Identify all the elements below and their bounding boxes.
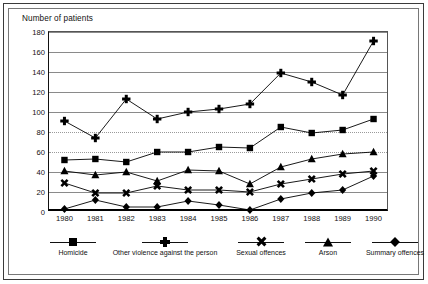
- data-point-x: [60, 179, 68, 187]
- data-point-diamond: [184, 197, 191, 205]
- data-point-plus: [308, 78, 316, 86]
- data-point-triangle: [60, 167, 68, 174]
- data-point-plus: [153, 115, 161, 123]
- data-point-square: [61, 157, 67, 163]
- data-point-triangle: [122, 168, 130, 175]
- y-tick-160: 160: [32, 48, 45, 57]
- x-tick-1986: 1986: [241, 214, 258, 223]
- data-point-diamond: [277, 195, 284, 203]
- data-point-diamond: [92, 196, 99, 204]
- data-point-x: [277, 180, 285, 188]
- x-tick-1990: 1990: [365, 214, 382, 223]
- x-tick-1984: 1984: [180, 214, 197, 223]
- data-point-diamond: [123, 203, 130, 211]
- data-point-square: [278, 124, 284, 130]
- chart-legend: HomicideOther violence against the perso…: [20, 236, 410, 266]
- data-point-square: [247, 145, 253, 151]
- x-tick-1981: 1981: [87, 214, 104, 223]
- x-tick-1983: 1983: [149, 214, 166, 223]
- legend-item-summary-offences[interactable]: Summary offences: [350, 236, 428, 256]
- data-point-plus: [369, 37, 377, 45]
- y-tick-180: 180: [32, 28, 45, 37]
- legend-label: Other violence against the person: [100, 249, 230, 256]
- x-marker-icon: [256, 237, 266, 247]
- data-point-square: [339, 127, 345, 133]
- data-point-square: [123, 159, 129, 165]
- data-point-triangle: [370, 148, 378, 155]
- legend-sample: [238, 236, 284, 248]
- data-point-plus: [215, 105, 223, 113]
- legend-sample: [372, 236, 418, 248]
- data-point-diamond: [339, 186, 346, 194]
- data-point-diamond: [308, 189, 315, 197]
- legend-label: Summary offences: [350, 249, 428, 256]
- square-marker-icon: [69, 238, 77, 246]
- data-point-diamond: [154, 203, 161, 211]
- chart-title: Number of patients: [22, 14, 93, 23]
- data-point-square: [154, 149, 160, 155]
- data-point-square: [216, 144, 222, 150]
- data-point-diamond: [61, 205, 68, 213]
- diamond-marker-icon: [390, 237, 400, 247]
- legend-sample: [50, 236, 96, 248]
- data-point-plus: [91, 134, 99, 142]
- y-tick-0: 0: [41, 208, 45, 217]
- series-line: [64, 41, 373, 138]
- x-tick-1985: 1985: [211, 214, 228, 223]
- series-homicide: [61, 116, 376, 165]
- y-tick-100: 100: [32, 108, 45, 117]
- series-line: [64, 119, 373, 162]
- data-point-diamond: [215, 201, 222, 209]
- y-tick-20: 20: [37, 188, 45, 197]
- legend-item-other-violence-against-the-person[interactable]: Other violence against the person: [100, 236, 230, 256]
- x-tick-1988: 1988: [303, 214, 320, 223]
- chart-figure: Number of patients 020406080100120140160…: [0, 0, 428, 284]
- series-other-violence-against-the-person: [60, 37, 377, 142]
- legend-label: Homicide: [38, 249, 108, 256]
- legend-sample: [142, 236, 188, 248]
- data-point-plus: [60, 117, 68, 125]
- data-point-square: [92, 156, 98, 162]
- data-point-square: [185, 149, 191, 155]
- data-point-diamond: [246, 206, 253, 214]
- y-tick-120: 120: [32, 88, 45, 97]
- data-point-triangle: [184, 166, 192, 173]
- x-tick-1989: 1989: [334, 214, 351, 223]
- plus-marker-icon: [160, 237, 170, 247]
- data-point-x: [308, 175, 316, 183]
- y-tick-60: 60: [37, 148, 45, 157]
- triangle-marker-icon: [323, 238, 333, 247]
- data-point-square: [309, 130, 315, 136]
- x-tick-1982: 1982: [118, 214, 135, 223]
- data-point-plus: [122, 95, 130, 103]
- data-point-square: [370, 116, 376, 122]
- series-plot: [49, 32, 389, 212]
- plot-area: 020406080100120140160180 198019811982198…: [48, 31, 388, 211]
- x-tick-1980: 1980: [56, 214, 73, 223]
- data-point-plus: [184, 108, 192, 116]
- x-tick-1987: 1987: [272, 214, 289, 223]
- y-tick-140: 140: [32, 68, 45, 77]
- legend-item-homicide[interactable]: Homicide: [38, 236, 108, 256]
- legend-sample: [305, 236, 351, 248]
- data-point-triangle: [246, 180, 254, 187]
- y-tick-80: 80: [37, 128, 45, 137]
- y-tick-40: 40: [37, 168, 45, 177]
- series-arson: [60, 148, 377, 187]
- data-point-plus: [338, 91, 346, 99]
